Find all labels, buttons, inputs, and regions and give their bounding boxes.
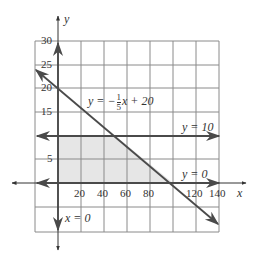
equation-label-x-0: x = 0 [65,211,90,226]
equation-label-diagonal: y = −15x + 20 [88,93,153,112]
x-tick-label: 60 [120,187,131,199]
y-tick-label: 20 [41,81,52,93]
y-tick-label: 15 [41,105,52,117]
x-tick-label: 40 [97,187,108,199]
x-tick-label: 120 [186,187,203,199]
x-axis-label: x [237,186,242,201]
y-tick-label: 5 [47,152,53,164]
fraction: 15 [117,93,122,112]
equation-label-y-0: y = 0 [182,167,207,182]
x-tick-label: 140 [209,187,226,199]
y-axis-label: y [64,12,69,27]
x-tick-label: 20 [74,187,85,199]
equation-label-y-10: y = 10 [182,120,213,135]
y-tick-label: 25 [41,58,52,70]
y-tick-label: 30 [41,34,52,46]
chart [0,0,257,266]
x-tick-label: 80 [143,187,154,199]
